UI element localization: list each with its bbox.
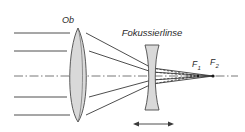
focal-point-1-dot xyxy=(197,75,200,78)
refracted-ray-4 xyxy=(152,76,213,80)
focal-point-1-subscript: 1 xyxy=(198,65,201,71)
incoming-ray-bundle xyxy=(14,33,70,115)
adjustment-arrow-head-right xyxy=(168,122,174,127)
converging-ray-1 xyxy=(86,33,152,68)
optical-diagram-figure: Ob Fokussierlinse F 1 F 2 xyxy=(0,0,245,132)
focusing-lens xyxy=(145,45,159,110)
converging-ray-2 xyxy=(89,51,152,72)
focal-point-2-label: F 2 xyxy=(210,57,220,69)
diagram-canvas: Ob Fokussierlinse F 1 F 2 xyxy=(0,0,245,132)
focusing-lens-adjustment-arrow xyxy=(133,122,174,127)
objective-lens-label: Ob xyxy=(62,15,74,25)
focal-point-2-dot xyxy=(211,74,214,77)
adjustment-arrow-head-left xyxy=(133,122,139,127)
focal-point-1-label: F 1 xyxy=(192,59,201,71)
converging-ray-bundle xyxy=(86,33,152,115)
focusing-lens-label: Fokussierlinse xyxy=(122,27,183,38)
focusing-lens-body xyxy=(145,45,159,110)
objective-lens xyxy=(70,28,87,122)
focal-point-2-subscript: 2 xyxy=(215,63,220,69)
refracted-ray-2 xyxy=(152,72,213,76)
objective-lens-body xyxy=(70,28,87,122)
